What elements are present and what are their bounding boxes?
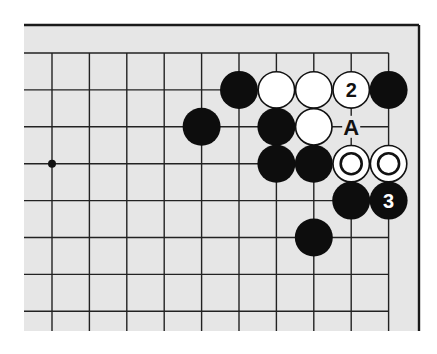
black-stone-3: 3: [370, 182, 408, 220]
white-stone: [258, 72, 294, 108]
white-stone: [370, 146, 406, 182]
move-number-label: 3: [383, 190, 394, 212]
black-stone: [220, 71, 258, 109]
black-stone: [295, 145, 333, 183]
white-stone-icon: [258, 72, 294, 108]
white-stone-icon: [296, 72, 332, 108]
black-stone-icon: [183, 108, 221, 146]
black-stone-icon: [370, 71, 408, 109]
point-labels: A: [342, 115, 360, 140]
white-stone: [296, 109, 332, 145]
white-stone-2: 2: [333, 72, 369, 108]
white-stone-icon: [333, 146, 369, 182]
black-stone: [295, 219, 333, 257]
star-points: [48, 160, 56, 168]
black-stone-icon: [332, 182, 370, 220]
black-stone-icon: [295, 219, 333, 257]
white-stone-icon: [296, 109, 332, 145]
black-stone: [257, 145, 295, 183]
black-stone: [183, 108, 221, 146]
white-stone: [296, 72, 332, 108]
black-stone-icon: [220, 71, 258, 109]
black-stone-icon: [257, 145, 295, 183]
white-stone: [333, 146, 369, 182]
black-stone-icon: [295, 145, 333, 183]
svg-text:A: A: [343, 115, 359, 140]
move-number-label: 2: [346, 79, 357, 101]
white-stone-icon: [370, 146, 406, 182]
black-stone: [370, 71, 408, 109]
black-stone-icon: [257, 108, 295, 146]
point-label-a: A: [342, 115, 360, 140]
go-board-diagram: A 23: [0, 0, 437, 354]
black-stone: [332, 182, 370, 220]
star-point-icon: [48, 160, 56, 168]
black-stone: [257, 108, 295, 146]
